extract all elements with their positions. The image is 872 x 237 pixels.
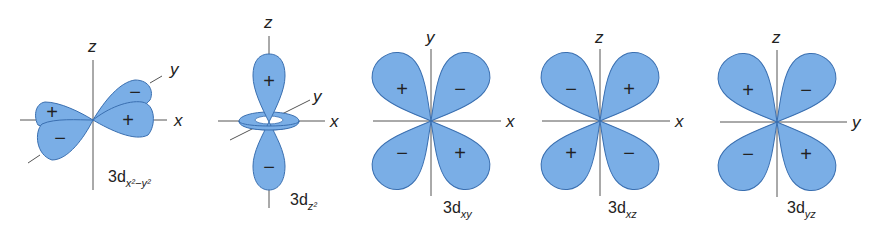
- orbital-name: 3dx²−y²: [108, 168, 151, 189]
- sign-upper-left: +: [742, 79, 754, 101]
- sign-upper-right: +: [623, 78, 635, 100]
- sign-lower-right: +: [800, 143, 812, 165]
- sign-upper-right: −: [800, 79, 812, 101]
- axis-label-z: z: [594, 28, 604, 47]
- axis-label-x: x: [674, 112, 684, 131]
- sign-lower-left: −: [396, 142, 408, 164]
- sign-lower-left: +: [565, 142, 577, 164]
- sign-front-left: −: [54, 127, 66, 149]
- axis-label-y: y: [312, 87, 323, 106]
- orbital-name: 3dxy: [443, 199, 473, 220]
- axis-label-z: z: [771, 28, 781, 47]
- orbital-name: 3dxz: [608, 199, 637, 220]
- axis-label-y: y: [169, 60, 180, 79]
- axis-label-y: y: [425, 28, 436, 47]
- axis-label-z: z: [263, 13, 273, 32]
- y-axis-front: [28, 155, 40, 163]
- sign-back-right: −: [129, 81, 141, 103]
- sign-lower-right: −: [623, 142, 635, 164]
- sign-upper-right: −: [454, 78, 466, 100]
- sign-back-left: +: [46, 101, 58, 123]
- orbital-dxy: y x + − − + 3dxy: [363, 28, 515, 220]
- sign-top: +: [263, 70, 275, 92]
- d-orbitals-diagram: z y x + − − + 3dx²−y² z y x + − 3dz²: [0, 0, 872, 237]
- orbital-dxz: z x − + + − 3dxz: [532, 28, 684, 220]
- orbital-dx2-y2: z y x + − − + 3dx²−y²: [20, 37, 183, 190]
- orbital-name: 3dz²: [290, 191, 317, 212]
- axis-label-y: y: [851, 113, 862, 132]
- axis-label-x: x: [505, 112, 515, 131]
- orbital-dz2: z y x + − 3dz²: [218, 13, 339, 212]
- orbital-dyz: z y + − − + 3dyz: [709, 28, 862, 220]
- sign-front-right: +: [122, 109, 134, 131]
- sign-lower-right: +: [454, 142, 466, 164]
- axis-label-z: z: [87, 37, 97, 56]
- sign-upper-left: −: [565, 78, 577, 100]
- sign-upper-left: +: [396, 78, 408, 100]
- y-axis-back: [150, 76, 162, 83]
- axis-label-x: x: [329, 112, 339, 131]
- axis-label-x: x: [173, 111, 183, 130]
- sign-bottom: −: [263, 156, 275, 178]
- orbital-name: 3dyz: [787, 199, 816, 220]
- sign-lower-left: −: [742, 143, 754, 165]
